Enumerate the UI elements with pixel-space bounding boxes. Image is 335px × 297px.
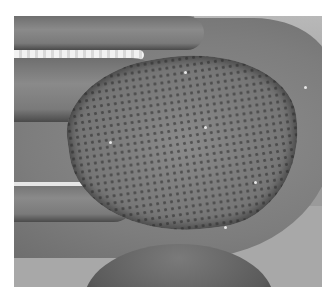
finger-index	[14, 16, 204, 50]
speck	[204, 126, 207, 129]
clinical-photo	[14, 16, 322, 287]
speck	[224, 226, 227, 229]
speck	[184, 71, 187, 74]
speck	[304, 86, 307, 89]
speck	[254, 181, 257, 184]
finger-gap-lower	[14, 182, 84, 186]
speck	[109, 141, 112, 144]
